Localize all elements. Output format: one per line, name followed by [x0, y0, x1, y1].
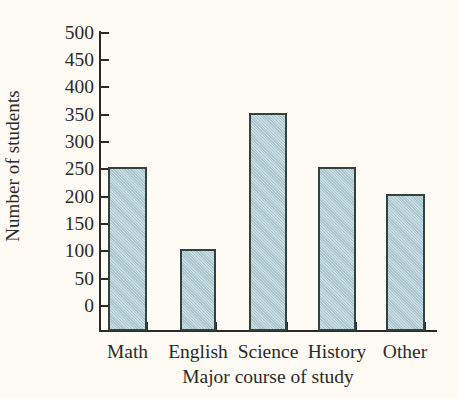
x-category-label-other: Other	[374, 341, 436, 363]
bar-history	[318, 167, 356, 331]
x-category-label-english: English	[163, 341, 233, 363]
bar-chart-figure: Number of students 500 450 400 350 300 2…	[0, 0, 459, 399]
y-tick-label: 450	[40, 50, 94, 70]
y-tick-label: 400	[40, 77, 94, 97]
bar-science	[249, 113, 287, 331]
bar-other	[386, 194, 425, 331]
bar-math	[108, 167, 147, 331]
y-tick-label: 500	[40, 23, 94, 43]
y-tick-mark	[101, 59, 109, 61]
y-tick-label: 350	[40, 105, 94, 125]
y-axis-title: Number of students	[0, 1, 26, 331]
y-tick-label: 0	[40, 296, 94, 316]
y-tick-mark	[101, 86, 109, 88]
y-tick-label: 200	[40, 187, 94, 207]
bar-english	[180, 249, 216, 331]
y-axis-line	[99, 31, 101, 332]
x-category-label-science: Science	[234, 341, 302, 363]
y-tick-label: 100	[40, 241, 94, 261]
y-tick-label: 50	[40, 269, 94, 289]
y-tick-label: 250	[40, 159, 94, 179]
x-axis-title: Major course of study	[99, 366, 437, 388]
y-tick-mark	[101, 114, 109, 116]
x-category-label-history: History	[303, 341, 371, 363]
y-tick-mark	[101, 141, 109, 143]
y-tick-mark	[101, 32, 109, 34]
y-tick-label: 300	[40, 132, 94, 152]
y-tick-label: 150	[40, 214, 94, 234]
x-category-label-math: Math	[97, 341, 158, 363]
y-axis-tick-labels: 500 450 400 350 300 250 200 150 100 50 0	[38, 0, 94, 399]
